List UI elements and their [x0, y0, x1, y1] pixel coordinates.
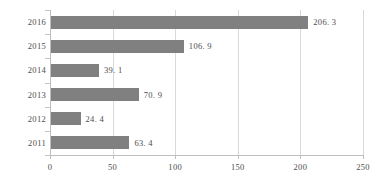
bar-row: 39. 1 [50, 64, 363, 77]
bar-2016 [50, 16, 308, 29]
gridline-100 [175, 10, 176, 155]
category-label-2013: 2013 [2, 90, 46, 100]
category-label-2011: 2011 [2, 138, 46, 148]
bar-row: 206. 3 [50, 16, 363, 29]
y-axis-line [50, 10, 51, 155]
bar-value-label-2015: 106. 9 [189, 41, 212, 51]
x-tick-150 [238, 155, 239, 159]
x-tick-label-200: 200 [294, 162, 308, 172]
x-tick-0 [50, 155, 51, 159]
x-tick-250 [363, 155, 364, 159]
y-axis-category-labels: 201620152014201320122011 [0, 10, 46, 155]
bar-row: 63. 4 [50, 136, 363, 149]
gridline-250 [363, 10, 364, 155]
x-tick-label-0: 0 [48, 162, 53, 172]
category-label-2012: 2012 [2, 114, 46, 124]
bar-value-label-2016: 206. 3 [313, 17, 336, 27]
bar-row: 70. 9 [50, 88, 363, 101]
x-tick-label-100: 100 [168, 162, 182, 172]
gridline-150 [238, 10, 239, 155]
gridline-50 [113, 10, 114, 155]
bar-2015 [50, 40, 184, 53]
category-label-2014: 2014 [2, 65, 46, 75]
bar-value-label-2011: 63. 4 [134, 138, 153, 148]
bar-row: 24. 4 [50, 112, 363, 125]
bar-value-label-2013: 70. 9 [144, 90, 163, 100]
bar-chart: 201620152014201320122011 206. 3106. 939.… [0, 0, 391, 184]
x-tick-200 [300, 155, 301, 159]
plot-area: 206. 3106. 939. 170. 924. 463. 4 [50, 10, 363, 155]
x-tick-100 [175, 155, 176, 159]
bar-2012 [50, 112, 81, 125]
gridline-200 [300, 10, 301, 155]
x-tick-label-250: 250 [356, 162, 370, 172]
bar-value-label-2014: 39. 1 [104, 65, 123, 75]
bar-value-label-2012: 24. 4 [86, 114, 105, 124]
bar-2014 [50, 64, 99, 77]
x-tick-label-50: 50 [108, 162, 117, 172]
x-tick-50 [113, 155, 114, 159]
bar-2011 [50, 136, 129, 149]
bar-row: 106. 9 [50, 40, 363, 53]
bar-2013 [50, 88, 139, 101]
category-label-2016: 2016 [2, 17, 46, 27]
x-axis-line [50, 155, 363, 156]
x-tick-label-150: 150 [231, 162, 245, 172]
category-label-2015: 2015 [2, 41, 46, 51]
